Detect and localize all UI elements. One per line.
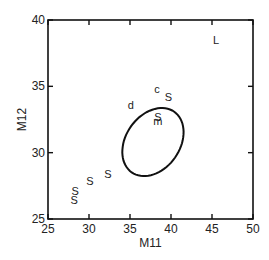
y-axis-label: M12 (15, 108, 29, 132)
y-tick-label: 35 (32, 79, 46, 93)
tick-labels: 25303540455025303540 (32, 13, 260, 236)
point-label: L (213, 34, 219, 46)
x-tick-label: 30 (82, 222, 96, 236)
y-tick-label: 40 (32, 13, 46, 27)
plot-frame (48, 20, 253, 219)
x-tick-label: 40 (164, 222, 178, 236)
point-label: S (86, 175, 93, 187)
point-label: m (153, 115, 162, 127)
x-tick-label: 35 (123, 222, 137, 236)
point-labels: LcSdSmSSSS (71, 34, 220, 207)
point-label: S (71, 194, 78, 206)
y-tick-label: 25 (32, 212, 46, 226)
point-label: c (154, 83, 160, 95)
x-axis-label: M11 (139, 236, 162, 250)
point-label: S (104, 168, 111, 180)
x-tick-label: 50 (246, 222, 260, 236)
point-label: d (128, 99, 134, 111)
axis-ticks (48, 20, 253, 219)
scatter-chart: 25303540455025303540 LcSdSmSSSS M11 M12 (0, 0, 269, 260)
y-tick-label: 30 (32, 146, 46, 160)
x-tick-label: 45 (205, 222, 219, 236)
point-label: S (165, 91, 172, 103)
